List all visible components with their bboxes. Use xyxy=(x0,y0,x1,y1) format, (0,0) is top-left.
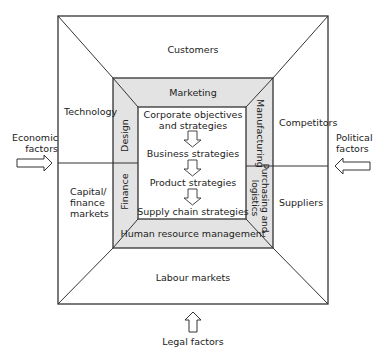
technology-label: Technology xyxy=(64,106,117,117)
diagonal-br xyxy=(273,248,328,304)
capital-line3: markets xyxy=(70,208,109,219)
legal-arrow-icon xyxy=(185,312,201,332)
design-label: Design xyxy=(119,116,130,156)
political-arrow-icon xyxy=(335,158,370,174)
customers-label: Customers xyxy=(167,44,218,55)
economic-line2: factors xyxy=(6,143,58,154)
product-strategies-label: Product strategies xyxy=(150,177,237,188)
corporate-objectives-label: Corporate objectives and strategies xyxy=(144,109,243,131)
political-line1: Political xyxy=(336,132,373,143)
economic-factors-label: Economic factors xyxy=(6,132,58,154)
political-factors-label: Political factors xyxy=(336,132,373,154)
diagonal-tr xyxy=(273,16,328,78)
purchasing-line2: logistics xyxy=(250,160,260,236)
economic-line1: Economic xyxy=(6,132,58,143)
diagonal-tl xyxy=(58,16,113,78)
diagonal-bl xyxy=(58,248,113,304)
capital-finance-markets-label: Capital/ finance markets xyxy=(70,186,109,219)
legal-factors-label: Legal factors xyxy=(162,336,223,347)
labour-markets-label: Labour markets xyxy=(156,272,231,283)
purchasing-logistics-label: Purchasing and logistics xyxy=(250,160,270,236)
corporate-line2: and strategies xyxy=(144,120,243,131)
competitors-label: Competitors xyxy=(279,117,337,128)
supply-chain-strategies-label: Supply chain strategies xyxy=(137,206,249,217)
economic-arrow-icon xyxy=(17,155,52,171)
hrm-label: Human resource management xyxy=(120,228,265,239)
suppliers-label: Suppliers xyxy=(279,197,323,208)
marketing-label: Marketing xyxy=(169,87,216,98)
purchasing-line1: Purchasing and xyxy=(260,160,270,236)
business-strategies-label: Business strategies xyxy=(147,148,239,159)
capital-line1: Capital/ xyxy=(70,186,109,197)
corporate-line1: Corporate objectives xyxy=(144,109,243,120)
political-line2: factors xyxy=(336,143,373,154)
finance-label: Finance xyxy=(119,172,130,212)
capital-line2: finance xyxy=(70,197,109,208)
